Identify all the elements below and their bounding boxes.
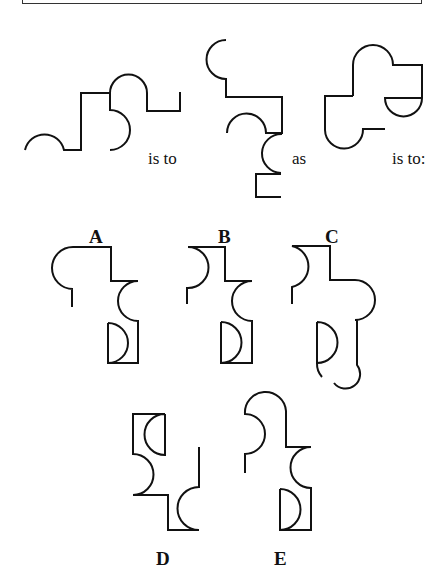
puzzle-canvas [0, 0, 426, 587]
figure-2 [207, 40, 282, 197]
figure-1 [25, 75, 180, 151]
option-e-figure [245, 392, 311, 530]
option-e-label[interactable]: E [274, 548, 287, 570]
option-a-label[interactable]: A [89, 226, 103, 248]
option-b-label[interactable]: B [218, 226, 231, 248]
option-d-label[interactable]: D [156, 548, 170, 570]
connector-is-to: is to [148, 149, 177, 169]
figure-3 [325, 45, 422, 148]
option-d-figure [133, 414, 199, 530]
option-c-label[interactable]: C [325, 226, 339, 248]
connector-is-to-colon: is to: [392, 149, 426, 169]
option-b-figure [187, 247, 252, 363]
connector-as: as [292, 149, 306, 169]
option-a-figure [52, 247, 138, 363]
option-c-figure [292, 246, 375, 389]
